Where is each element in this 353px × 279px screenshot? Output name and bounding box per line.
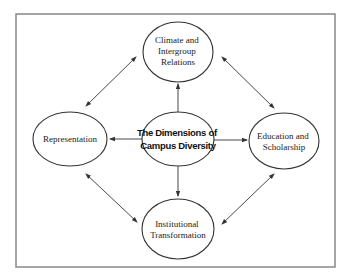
- node-center-line-2: Campus Diversity: [140, 140, 216, 151]
- arrow-climate-representation: [86, 57, 136, 106]
- node-education-line-1: Education and: [257, 131, 309, 141]
- node-institutional: Institutional Transformation: [142, 199, 214, 259]
- arrow-climate-education: [222, 57, 274, 108]
- node-climate-line-1: Climate and: [155, 35, 199, 45]
- node-education-line-2: Scholarship: [263, 142, 306, 152]
- node-education-label: Education and Scholarship: [257, 131, 311, 152]
- node-center-ellipse: [142, 112, 214, 166]
- node-institutional-label: Institutional Transformation: [150, 219, 206, 240]
- node-education: Education and Scholarship: [249, 113, 319, 169]
- node-institutional-ellipse: [142, 199, 214, 259]
- node-climate: Climate and Intergroup Relations: [143, 22, 213, 82]
- campus-diversity-diagram: Climate and Intergroup Relations Represe…: [0, 0, 353, 279]
- node-center-line-1: The Dimensions of: [137, 127, 218, 138]
- node-institutional-line-2: Transformation: [150, 230, 206, 240]
- arrow-representation-institutional: [86, 174, 137, 222]
- node-representation: Representation: [33, 112, 107, 166]
- node-climate-label: Climate and Intergroup Relations: [155, 35, 201, 67]
- node-institutional-line-1: Institutional: [155, 219, 199, 229]
- node-climate-line-2: Intergroup: [158, 46, 196, 56]
- node-representation-label: Representation: [43, 134, 97, 144]
- node-center: The Dimensions of Campus Diversity: [137, 112, 219, 166]
- arrow-education-institutional: [222, 174, 274, 224]
- node-climate-line-3: Relations: [161, 57, 195, 67]
- node-representation-line-1: Representation: [43, 134, 97, 144]
- node-education-ellipse: [249, 113, 319, 169]
